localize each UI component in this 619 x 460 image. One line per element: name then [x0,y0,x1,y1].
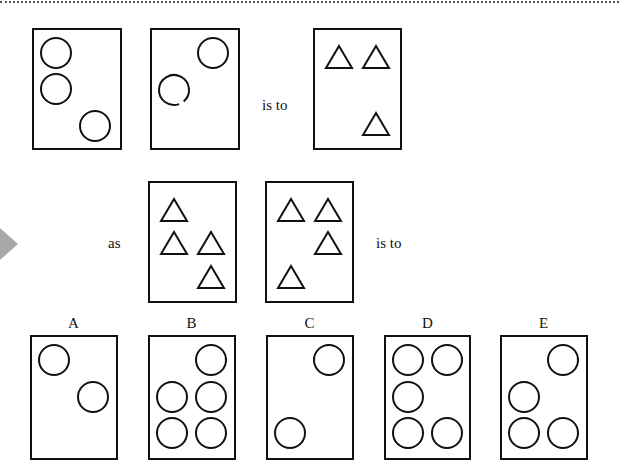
figure-panel-3 [313,28,402,150]
triangle-shape [315,199,341,221]
option-label-a: A [30,316,117,331]
circle-shape [41,38,71,68]
figure-panel-2 [150,28,240,150]
circle-shape [275,418,305,448]
circle-shape [196,418,226,448]
triangle-shape [326,46,352,68]
triangle-shape [278,266,304,288]
triangle-shape [363,46,389,68]
circle-shape [196,345,226,375]
option-e[interactable] [500,335,588,460]
circle-shape [157,418,187,448]
broken-circle-shape [159,75,189,105]
option-c[interactable] [266,335,354,460]
dotted-divider [0,1,619,3]
circle-shape [80,111,110,141]
option-d[interactable] [384,335,471,460]
circle-shape [78,382,108,412]
option-b[interactable] [148,335,236,460]
circle-shape [509,418,539,448]
circle-shape [198,38,228,68]
circle-shape [432,418,462,448]
figure-panel-1 [32,28,122,150]
circle-shape [39,345,69,375]
option-label-b: B [148,316,235,331]
circle-shape [509,382,539,412]
play-arrow-icon[interactable] [0,228,18,260]
circle-shape [393,345,423,375]
circle-shape [548,345,578,375]
circle-shape [393,382,423,412]
as-text: as [108,236,121,251]
option-label-c: C [266,316,353,331]
is-to-text-2: is to [376,236,401,251]
figure-panel-5 [265,181,354,303]
figure-panel-4 [148,181,237,303]
circle-shape [196,382,226,412]
option-label-e: E [500,316,587,331]
circle-shape [157,382,187,412]
triangle-shape [278,199,304,221]
triangle-shape [315,232,341,254]
circle-shape [393,418,423,448]
triangle-shape [363,113,389,135]
option-label-d: D [384,316,471,331]
option-a[interactable] [30,335,118,460]
triangle-shape [198,266,224,288]
circle-shape [432,345,462,375]
circle-shape [41,74,71,104]
triangle-shape [198,232,224,254]
is-to-text-1: is to [262,98,287,113]
triangle-shape [161,232,187,254]
circle-shape [314,345,344,375]
circle-shape [548,418,578,448]
triangle-shape [161,199,187,221]
